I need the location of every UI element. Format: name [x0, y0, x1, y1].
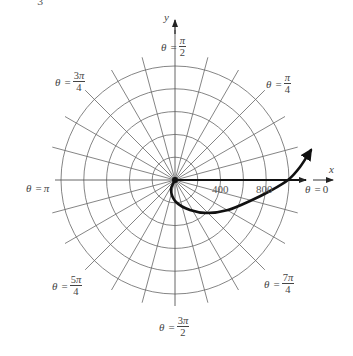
grid-radial-line [175, 180, 239, 290]
numerator: π [76, 274, 81, 285]
equals-sign: = [35, 182, 41, 194]
theta-symbol: θ [264, 278, 269, 290]
label-theta-zero: θ = 0 [305, 183, 328, 195]
curve-path [171, 150, 311, 213]
label-theta-pi-over-4: θ = π 4 [266, 73, 291, 95]
numerator: π [180, 35, 185, 46]
equals-sign: = [61, 280, 67, 292]
tick-label-800: 800 [256, 183, 273, 195]
grid-radial-line [142, 180, 175, 303]
denominator: 4 [285, 284, 290, 295]
grid-radial-line [52, 180, 175, 213]
fraction: π 4 [284, 73, 291, 95]
grid-radial-line [85, 180, 175, 270]
fraction: 7π 4 [282, 273, 295, 295]
x-axis-label: x [329, 163, 334, 175]
fraction: 3π 2 [177, 316, 190, 338]
grid-radial-line [175, 57, 208, 180]
equals-sign: = [273, 278, 279, 290]
label-theta-5pi-over-4: θ = 5π 4 [52, 275, 82, 297]
denominator: 2 [180, 47, 185, 58]
zero-value: 0 [323, 183, 329, 195]
denominator: 4 [285, 84, 290, 95]
label-theta-pi: θ = π [26, 182, 49, 194]
theta-symbol: θ [55, 76, 60, 88]
numerator: π [183, 315, 188, 326]
grid-radial-line [175, 180, 208, 303]
grid-radial-line [112, 180, 176, 290]
grid-radial-line [112, 70, 176, 180]
polar-diagram: 3 y x 400 800 θ = π 2 θ = 3π 4 θ = π 4 θ… [0, 0, 353, 356]
pi-value: π [44, 182, 50, 194]
grid-radial-line [175, 117, 285, 181]
fraction: π 2 [179, 36, 186, 58]
y-axis-label: y [164, 11, 169, 23]
theta-symbol: θ [52, 280, 57, 292]
equals-sign: = [275, 78, 281, 90]
grid-radial-line [175, 147, 298, 180]
label-theta-3pi-over-2: θ = 3π 2 [159, 316, 189, 338]
denominator: 4 [73, 286, 78, 297]
cropped-text-artifact: 3 [37, 0, 43, 7]
label-theta-pi-over-2: θ = π 2 [161, 36, 186, 58]
theta-symbol: θ [305, 183, 310, 195]
fraction: 5π 4 [70, 275, 83, 297]
denominator: 2 [180, 327, 185, 338]
grid-radial-line [175, 90, 265, 180]
equals-sign: = [314, 183, 320, 195]
equals-sign: = [64, 76, 70, 88]
theta-symbol: θ [26, 182, 31, 194]
grid-radial-line [175, 70, 239, 180]
numerator: π [288, 272, 293, 283]
grid-radial-line [52, 147, 175, 180]
theta-symbol: θ [161, 41, 166, 53]
numerator: π [79, 70, 84, 81]
numerator: π [285, 72, 290, 83]
grid-radial-line [142, 57, 175, 180]
tick-label-400: 400 [212, 183, 229, 195]
grid-radial-line [65, 117, 175, 181]
equals-sign: = [170, 41, 176, 53]
theta-symbol: θ [266, 78, 271, 90]
fraction: 3π 4 [73, 71, 86, 93]
label-theta-3pi-over-4: θ = 3π 4 [55, 71, 85, 93]
theta-symbol: θ [159, 321, 164, 333]
label-theta-7pi-over-4: θ = 7π 4 [264, 273, 294, 295]
denominator: 4 [76, 82, 81, 93]
grid-radial-line [65, 180, 175, 244]
equals-sign: = [168, 321, 174, 333]
grid-radial-line [85, 90, 175, 180]
